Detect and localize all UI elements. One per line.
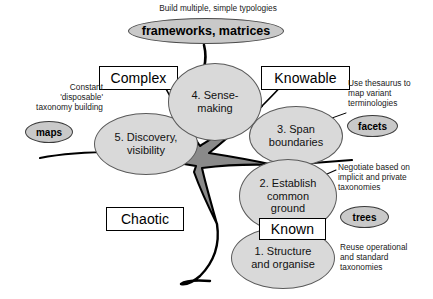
banner-label: frameworks, matrices <box>142 24 271 38</box>
pill-trees[interactable]: trees <box>340 206 389 228</box>
quadrant-known-label: Known <box>271 221 314 237</box>
annotation-complex: Constant 'disposable' taxonomy building <box>8 83 103 112</box>
banner-frameworks-matrices[interactable]: frameworks, matrices <box>128 18 284 44</box>
annotation-knowable: Use thesaurus to map variant terminologi… <box>348 79 432 108</box>
pill-facets-label: facets <box>358 121 387 132</box>
quadrant-known[interactable]: Known <box>259 218 326 240</box>
node-span-boundaries-label: 3. Span boundaries <box>265 123 327 148</box>
pill-maps[interactable]: maps <box>25 121 73 143</box>
quadrant-knowable-label: Knowable <box>274 70 336 86</box>
pill-trees-label: trees <box>353 212 377 223</box>
node-structure-organise-label: 1. Structure and organise <box>247 245 319 270</box>
title-caption: Build multiple, simple typologies <box>128 4 308 14</box>
node-sense-making[interactable]: 4. Sense- making <box>168 63 262 141</box>
annotation-known: Reuse operational and standard taxonomie… <box>340 243 432 272</box>
annotation-common-ground: Negotiate based on implicit and private … <box>338 163 432 192</box>
node-span-boundaries[interactable]: 3. Span boundaries <box>249 106 343 166</box>
quadrant-complex[interactable]: Complex <box>99 66 178 90</box>
pill-facets[interactable]: facets <box>347 115 398 137</box>
quadrant-chaotic[interactable]: Chaotic <box>106 207 184 231</box>
node-discovery-visibility-label: 5. Discovery, visibility <box>111 131 182 156</box>
quadrant-complex-label: Complex <box>111 70 167 86</box>
node-common-ground-label: 2. Establish common ground <box>256 177 321 215</box>
divider-bottom <box>181 224 218 284</box>
node-sense-making-label: 4. Sense- making <box>187 89 242 114</box>
quadrant-chaotic-label: Chaotic <box>121 211 169 227</box>
quadrant-knowable[interactable]: Knowable <box>261 66 350 90</box>
pill-maps-label: maps <box>36 127 62 138</box>
connector-knowable <box>332 113 346 118</box>
